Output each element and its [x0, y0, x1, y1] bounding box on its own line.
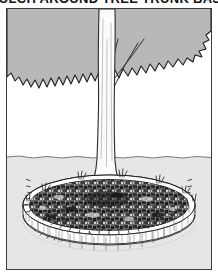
figure-root: MULCH AROUND TREE TRUNK BASE: [0, 0, 218, 276]
figure-title-strip: MULCH AROUND TREE TRUNK BASE: [0, 0, 218, 7]
figure-title: MULCH AROUND TREE TRUNK BASE: [0, 0, 218, 6]
illustration-frame: [6, 8, 212, 270]
tree-mulch-scene: [7, 9, 211, 269]
